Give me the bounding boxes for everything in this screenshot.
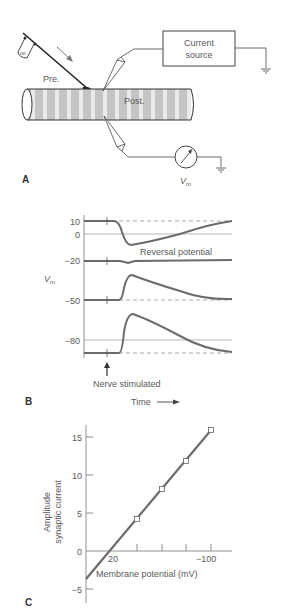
y-tick-15: 15	[72, 433, 82, 443]
ground-icon	[216, 168, 226, 172]
panel-b-label: B	[25, 396, 32, 407]
current-electrode-icon	[103, 49, 163, 91]
trace-minus90	[84, 314, 232, 353]
x-tick-minus100: −100	[196, 554, 216, 564]
y-tick-5: 5	[77, 509, 82, 519]
current-source-line1: Current	[184, 38, 215, 48]
y-tick-minus20: −20	[65, 256, 80, 266]
x-axis-label: Membrane potential (mV)	[96, 569, 198, 579]
postsynaptic-label: Post.	[124, 96, 145, 106]
figure-canvas: oo Pre. Post. Current source	[0, 0, 287, 614]
y-tick-0: 0	[75, 230, 80, 240]
panel-c: 15 10 5 0 −5 20 −100 Membrane potential …	[25, 425, 232, 608]
trace-plus10	[84, 221, 232, 245]
y-axis-label-line2: synaptic current	[53, 480, 63, 544]
postsynaptic-fiber	[22, 89, 194, 120]
voltmeter-label: Vm	[180, 176, 191, 187]
x-tick-20: 20	[108, 554, 118, 564]
y-tick-10: 10	[70, 217, 80, 227]
current-source-line2: source	[185, 50, 212, 60]
y-tick-minus50: −50	[65, 296, 80, 306]
ground-icon	[261, 69, 271, 73]
current-source-box: Current source	[163, 31, 266, 68]
fit-line	[86, 429, 212, 579]
reversal-potential-label: Reversal potential	[140, 247, 212, 257]
panel-a-label: A	[22, 174, 29, 185]
svg-text:oo: oo	[20, 50, 26, 56]
trace-minus50	[84, 275, 232, 300]
trace-reversal	[84, 260, 232, 263]
voltmeter-icon	[175, 146, 221, 168]
direction-arrow-icon	[57, 47, 73, 62]
stimulus-arrow-icon	[104, 362, 110, 376]
panel-b: 10 0 −20 −50 −80 Vm Reversal potential N…	[25, 215, 232, 407]
y-tick-0: 0	[77, 547, 82, 557]
y-axis-label: Vm	[44, 274, 55, 285]
time-label: Time	[131, 397, 151, 407]
panel-c-label: C	[25, 597, 32, 608]
time-arrow-icon	[157, 400, 180, 405]
recording-electrode-icon	[104, 116, 175, 157]
panel-a: oo Pre. Post. Current source	[18, 31, 271, 187]
y-tick-minus80: −80	[65, 336, 80, 346]
y-tick-10: 10	[72, 471, 82, 481]
presynaptic-label: Pre.	[43, 74, 60, 84]
nerve-stimulated-label: Nerve stimulated	[93, 379, 161, 389]
y-axis-label-line1: Amplitude	[42, 492, 52, 532]
y-tick-minus5: −5	[72, 585, 82, 595]
